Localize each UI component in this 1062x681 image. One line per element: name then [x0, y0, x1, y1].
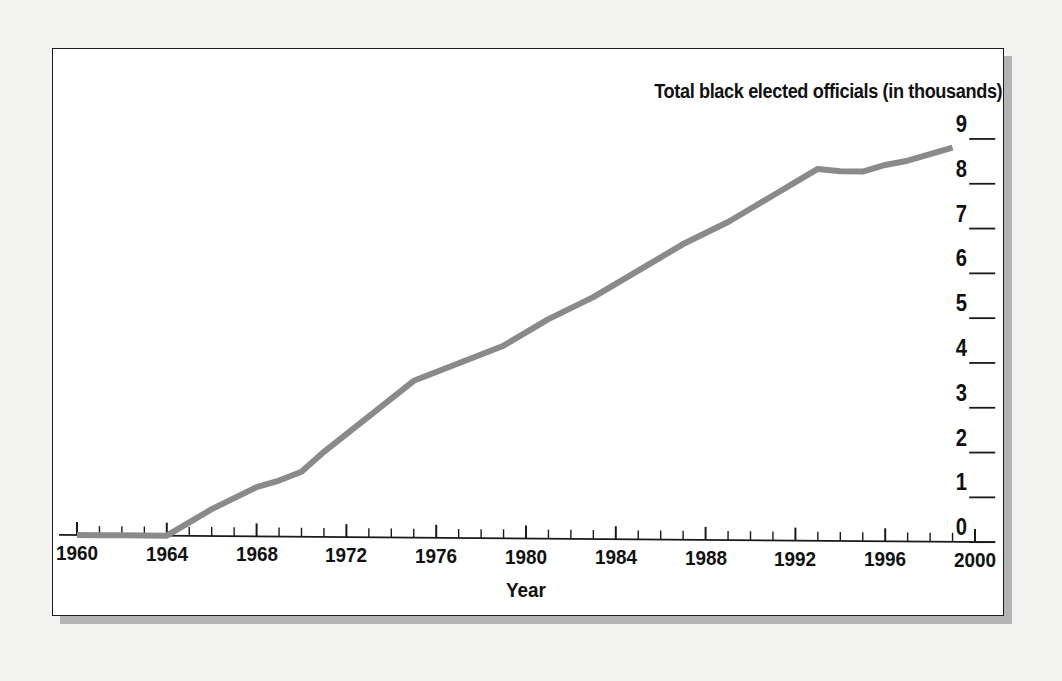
x-axis-tick-label: 1968	[216, 542, 297, 566]
y-axis-tick-label: 2	[944, 425, 967, 452]
y-axis-tick-label: 3	[944, 380, 967, 407]
y-axis-tick-label: 5	[944, 290, 967, 317]
x-axis-tick-label: 1984	[575, 545, 656, 569]
x-axis-tick-label: 1992	[755, 547, 836, 571]
y-axis-tick-label: 7	[944, 201, 967, 228]
x-axis-tick-label: 1964	[126, 542, 207, 566]
x-axis-tick-label: 1988	[665, 546, 746, 570]
y-axis-tick-label: 4	[944, 335, 967, 362]
x-axis-tick-label: 1960	[37, 541, 118, 565]
y-axis-tick-label: 0	[944, 514, 967, 541]
chart-title: Total black elected officials (in thousa…	[654, 80, 1002, 103]
x-axis-tick-label: 1980	[486, 545, 567, 569]
x-axis-tick-label: 1972	[306, 543, 387, 567]
y-axis-tick-label: 1	[944, 469, 967, 496]
x-axis-tick-label: 2000	[935, 548, 1016, 572]
x-axis-tick-label: 1976	[396, 544, 477, 568]
y-axis-tick-label: 6	[944, 245, 967, 272]
figure-frame	[52, 48, 1004, 616]
y-axis-tick-label: 8	[944, 156, 967, 183]
y-axis-tick-label: 9	[944, 111, 967, 138]
x-axis-tick-label: 1996	[845, 547, 926, 571]
x-axis-title: Year	[436, 578, 616, 602]
